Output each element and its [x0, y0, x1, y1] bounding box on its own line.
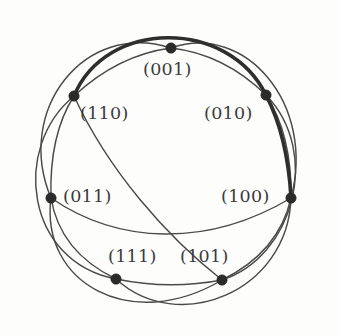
node-100[interactable]	[286, 193, 296, 203]
rosette-diagram: (001) (010) (100) (101) (111) (011) (110…	[0, 0, 339, 335]
node-label-010: (010)	[204, 105, 253, 123]
node-111[interactable]	[111, 274, 121, 284]
edge-101-111	[116, 279, 222, 285]
edge-011-110	[51, 96, 74, 198]
node-label-100: (100)	[221, 188, 270, 206]
node-label-001: (001)	[143, 61, 192, 79]
node-label-110: (110)	[80, 105, 129, 123]
node-110[interactable]	[69, 91, 79, 101]
graph-canvas	[0, 0, 339, 335]
node-011[interactable]	[46, 193, 56, 203]
node-label-101: (101)	[180, 248, 229, 266]
node-010[interactable]	[261, 90, 271, 100]
node-001[interactable]	[166, 43, 176, 53]
thin-edge-group	[51, 48, 291, 285]
node-101[interactable]	[217, 275, 227, 285]
edge-100-101	[222, 198, 291, 280]
node-label-011: (011)	[63, 188, 112, 206]
node-label-111: (111)	[108, 248, 157, 266]
